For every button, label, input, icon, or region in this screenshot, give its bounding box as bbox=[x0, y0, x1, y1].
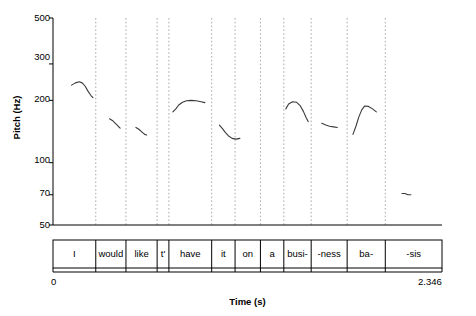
segment-label: on bbox=[235, 240, 260, 268]
segment-label: -sis bbox=[385, 240, 442, 268]
segment-label: t' bbox=[157, 240, 169, 268]
segment-label: busi- bbox=[284, 240, 311, 268]
pitch-contour-ness bbox=[322, 123, 338, 127]
y-tick-marks-group bbox=[49, 18, 53, 225]
pitch-contours-group bbox=[72, 82, 411, 195]
segment-label: like bbox=[126, 240, 157, 268]
x-axis-title: Time (s) bbox=[53, 296, 442, 307]
gridlines-group bbox=[96, 18, 386, 225]
axis-lines-group bbox=[53, 18, 442, 225]
segment-label: have bbox=[169, 240, 212, 268]
x-tick-label-start: 0 bbox=[51, 276, 56, 287]
segment-label: -ness bbox=[311, 240, 347, 268]
segment-label: a bbox=[260, 240, 283, 268]
pitch-contour-ba bbox=[353, 106, 376, 134]
segment-label: ba- bbox=[347, 240, 385, 268]
pitch-contour-busi bbox=[286, 102, 308, 122]
pitch-contour-have bbox=[173, 100, 205, 112]
pitch-contour-figure: 500 300 200 100 70 50 Pitch (Hz) 0 2.346… bbox=[0, 0, 476, 316]
plot-canvas bbox=[0, 0, 476, 316]
x-tick-label-end: 2.346 bbox=[418, 276, 442, 287]
x-tick-marks-group bbox=[53, 268, 442, 272]
segment-label: it bbox=[212, 240, 235, 268]
segment-label: would bbox=[96, 240, 126, 268]
pitch-contour-like bbox=[136, 127, 147, 135]
pitch-contour-I bbox=[72, 82, 93, 98]
pitch-contour-it bbox=[219, 125, 239, 139]
pitch-contour-would bbox=[110, 119, 121, 128]
segment-label: I bbox=[53, 240, 96, 268]
pitch-contour-sis bbox=[402, 193, 411, 194]
